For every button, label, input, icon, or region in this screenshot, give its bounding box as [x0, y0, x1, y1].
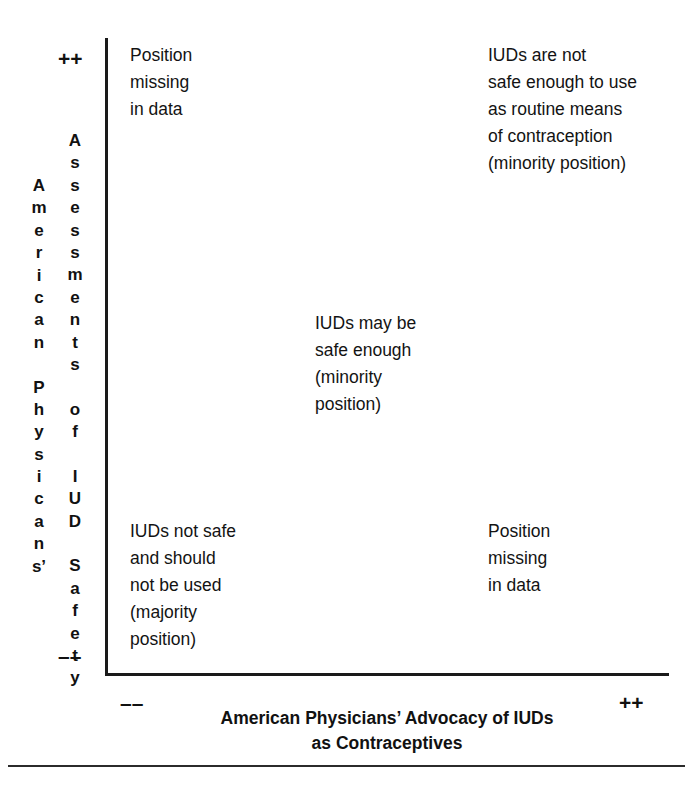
- quadrant-center-label: IUDs may be safe enough (minority positi…: [315, 310, 505, 418]
- axis-title-letter: c: [26, 287, 52, 309]
- axis-title-letter: c: [26, 488, 52, 510]
- quadrant-top-left-label: Position missing in data: [130, 42, 340, 123]
- axis-title-letter: e: [62, 287, 88, 309]
- axis-title-letter: S: [62, 555, 88, 577]
- axis-title-letter: D: [62, 511, 88, 533]
- y-axis-line: [105, 38, 108, 676]
- axis-title-letter: t: [62, 332, 88, 354]
- axis-title-letter: i: [26, 265, 52, 287]
- axis-title-letter: e: [62, 623, 88, 645]
- quadrant-figure: ++ –– –– ++ American Physicans’ Assessme…: [0, 0, 693, 785]
- x-axis-title: American Physicians’ Advocacy of IUDs as…: [105, 706, 669, 756]
- axis-title-letter: s: [62, 220, 88, 242]
- axis-title-letter: n: [26, 533, 52, 555]
- axis-title-letter: e: [26, 220, 52, 242]
- axis-title-letter: s: [62, 175, 88, 197]
- axis-title-letter: s: [62, 242, 88, 264]
- axis-title-letter: n: [62, 309, 88, 331]
- axis-title-letter: s: [62, 354, 88, 376]
- y-axis-title-column-two: Assessments of IUD Safety: [62, 130, 88, 690]
- axis-title-letter: s’: [26, 556, 52, 578]
- axis-title-letter: U: [62, 488, 88, 510]
- axis-title-letter: a: [62, 578, 88, 600]
- axis-title-letter: n: [26, 332, 52, 354]
- axis-title-letter: t: [62, 645, 88, 667]
- axis-title-letter: P: [26, 377, 52, 399]
- axis-title-letter: e: [62, 197, 88, 219]
- axis-title-letter: o: [62, 399, 88, 421]
- bottom-divider: [8, 765, 685, 767]
- axis-title-letter: i: [26, 466, 52, 488]
- axis-title-letter: m: [62, 264, 88, 286]
- x-axis-line: [105, 673, 669, 676]
- axis-title-letter: I: [62, 466, 88, 488]
- axis-title-letter: y: [62, 667, 88, 689]
- axis-title-letter: s: [62, 152, 88, 174]
- axis-title-letter: f: [62, 421, 88, 443]
- axis-title-letter: h: [26, 399, 52, 421]
- axis-title-letter: m: [26, 197, 52, 219]
- axis-title-letter: A: [26, 175, 52, 197]
- quadrant-top-right-label: IUDs are not safe enough to use as routi…: [488, 42, 688, 177]
- quadrant-bottom-right-label: Position missing in data: [488, 518, 678, 599]
- axis-title-letter: A: [62, 130, 88, 152]
- axis-title-letter: a: [26, 511, 52, 533]
- axis-title-letter: r: [26, 242, 52, 264]
- axis-title-letter: y: [26, 421, 52, 443]
- axis-title-letter: a: [26, 309, 52, 331]
- y-axis-title-column-one: American Physicans’: [26, 175, 52, 578]
- axis-title-letter: f: [62, 600, 88, 622]
- quadrant-bottom-left-label: IUDs not safe and should not be used (ma…: [130, 518, 330, 653]
- axis-title-letter: s: [26, 444, 52, 466]
- y-axis-high-mark: ++: [58, 48, 83, 69]
